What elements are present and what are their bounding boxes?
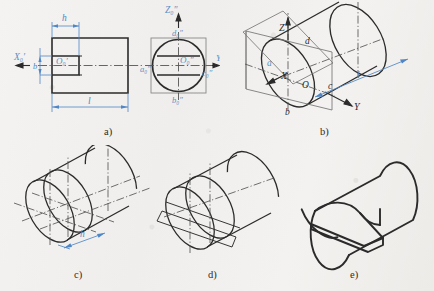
figure-canvas: X₀′ O₀′ h b xyxy=(0,0,434,291)
c-iso-axis-1 xyxy=(14,203,96,232)
subfigure-a: X₀′ O₀′ h b xyxy=(0,0,220,145)
d-slot-upper-face-1 xyxy=(166,202,240,228)
dim-label-l: l xyxy=(88,96,91,106)
c-dim-h-arrow-2 xyxy=(97,233,105,238)
caption-c: c) xyxy=(74,269,83,281)
dim-l-arrow-right-b xyxy=(400,59,408,64)
caption-b: b) xyxy=(320,126,329,138)
label-point-b0: b₀″ xyxy=(172,95,183,105)
axis-y-arrowhead-b xyxy=(344,100,352,107)
dim-label-l-b: l xyxy=(357,70,360,80)
label-point-c0: c₀″ xyxy=(202,68,213,78)
label-axis-z0-dprime: Z₀″ xyxy=(165,5,179,15)
label-point-a-b: a xyxy=(267,58,272,68)
label-origin-o-b: O xyxy=(302,80,309,90)
d-slot-end-right xyxy=(232,237,236,247)
subfigure-b: Z X Y O a d b c l b) xyxy=(215,0,434,145)
e-slot-front-face xyxy=(311,229,383,252)
label-point-b-b: b xyxy=(285,107,290,117)
label-origin-o0-prime: O₀′ xyxy=(56,56,69,66)
cylinder-bottom-edge xyxy=(307,66,377,105)
d-slot-end-left xyxy=(157,211,162,221)
dim-l-arrow-left-b xyxy=(315,93,323,98)
caption-e: e) xyxy=(350,269,359,281)
dim-h-arrow-right xyxy=(73,24,79,28)
c-cyl-axis-2 xyxy=(40,188,150,229)
subfigure-c: h c) xyxy=(0,145,160,291)
label-point-d0: d₀″ xyxy=(172,28,183,38)
axis-z-arrowhead xyxy=(176,14,181,21)
dim-l-arrow-left xyxy=(52,105,59,109)
d-inner-ellipse xyxy=(176,168,245,247)
caption-d: d) xyxy=(208,269,217,281)
c-iso-axis-2 xyxy=(32,193,114,222)
axis-z-arrowhead-b xyxy=(286,18,290,25)
label-axis-x-b: X xyxy=(280,70,288,81)
caption-a: a) xyxy=(104,126,113,138)
c-dim-h-arrow-1 xyxy=(64,243,72,248)
dim-label-h: h xyxy=(62,13,67,23)
label-point-a0: a₀″ xyxy=(140,64,151,74)
c-top-edge xyxy=(33,148,95,182)
label-axis-x0-prime: X₀′ xyxy=(13,52,26,62)
label-axis-y-b: Y xyxy=(354,101,361,112)
e-body-outline xyxy=(315,162,417,255)
dim-b-arrow-top xyxy=(38,56,41,62)
e-front-arc-lower xyxy=(311,211,349,269)
dim-label-b: b xyxy=(33,61,37,71)
d-slot-line-2 xyxy=(157,221,232,247)
dim-l-arrow-right xyxy=(121,105,128,109)
axis-x-arrowhead xyxy=(16,63,23,68)
label-origin-o0-dprime: O₀″ xyxy=(180,55,194,65)
dim-b-arrow-bot xyxy=(38,69,41,75)
dim-h-arrow-left xyxy=(52,24,58,28)
label-point-d-b: d xyxy=(305,36,310,46)
subfigure-d: d) xyxy=(140,145,290,291)
subfigure-e: e) xyxy=(280,145,434,291)
c-dim-label-h: h xyxy=(80,229,85,239)
label-axis-z-b: Z xyxy=(279,22,285,33)
